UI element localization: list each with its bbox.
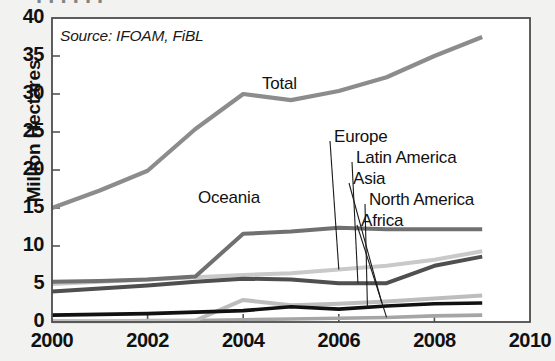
series-label-north-america: North America xyxy=(369,190,474,210)
series-label-oceania: Oceania xyxy=(198,188,260,208)
series-label-africa: Africa xyxy=(361,211,403,231)
source-note: Source: IFOAM, FiBL xyxy=(60,27,204,45)
plot-area xyxy=(0,0,555,361)
series-label-latin-america: Latin America xyxy=(356,148,456,168)
chart-figure: . . . . . . Million Hectares 40353025201… xyxy=(0,0,555,361)
series-label-total: Total xyxy=(262,74,297,94)
plot-background xyxy=(52,18,530,322)
series-label-asia: Asia xyxy=(353,169,385,189)
series-label-europe: Europe xyxy=(334,127,388,147)
